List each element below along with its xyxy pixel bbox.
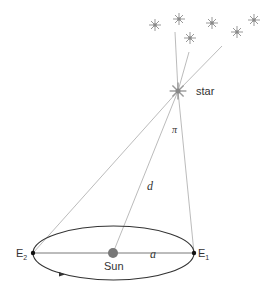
star-icon	[231, 26, 243, 38]
star-label: star	[196, 86, 214, 97]
star-icon	[248, 14, 260, 26]
e2-point	[31, 251, 35, 255]
line-star-e2	[33, 91, 178, 253]
distance-label: d	[147, 180, 153, 192]
sight-lines	[33, 91, 194, 253]
line-star-e1	[178, 91, 194, 253]
star-icon	[149, 19, 161, 31]
sun-label: Sun	[104, 261, 124, 272]
orbit-direction-arrow-icon	[59, 272, 65, 277]
e1-subscript: 1	[205, 254, 209, 261]
sun-icon	[108, 248, 118, 258]
sight-lines-upper	[175, 32, 222, 91]
star-icon	[184, 32, 196, 44]
parallax-angle-label: π	[172, 125, 177, 135]
star-icon	[173, 13, 185, 25]
diagram-canvas	[0, 0, 261, 293]
background-stars	[149, 13, 260, 44]
e2-label: E2	[16, 248, 27, 261]
e2-subscript: 2	[23, 254, 27, 261]
e1-label: E1	[198, 248, 209, 261]
e1-point	[192, 251, 196, 255]
line-star-sun	[113, 91, 178, 253]
star-icon	[206, 17, 218, 29]
parallax-diagram: star π d a Sun E1 E2	[0, 0, 261, 293]
semi-major-axis-label: a	[150, 248, 156, 260]
